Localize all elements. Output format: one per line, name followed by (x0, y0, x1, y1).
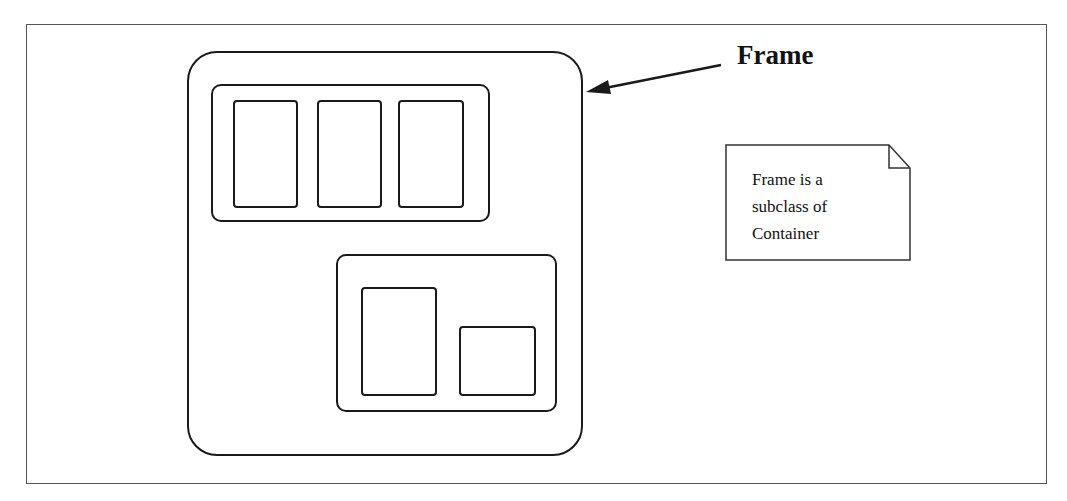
diagram-annotations (0, 0, 1067, 501)
note-text: Frame is a subclass of Container (752, 166, 827, 247)
note-line-3: Container (752, 220, 827, 247)
frame-label: Frame (737, 40, 813, 71)
note-line-2: subclass of (752, 193, 827, 220)
note-line-1: Frame is a (752, 166, 827, 193)
arrow-icon (586, 65, 721, 94)
